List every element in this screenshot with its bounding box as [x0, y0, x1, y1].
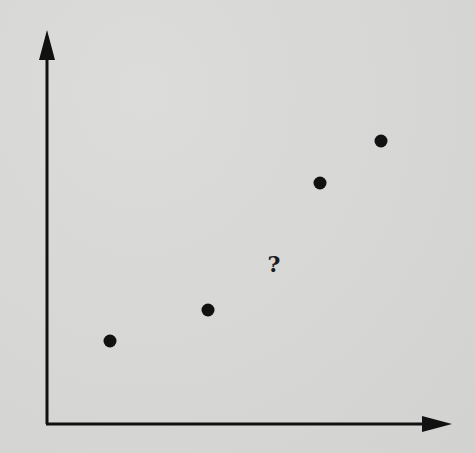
axes	[39, 30, 452, 432]
scatter-plot	[0, 0, 475, 453]
data-points	[104, 135, 388, 348]
data-point	[375, 135, 388, 148]
missing-point-marker: ?	[268, 251, 281, 277]
data-point	[314, 177, 327, 190]
data-point	[104, 335, 117, 348]
y-axis-arrow-icon	[39, 30, 55, 60]
x-axis-arrow-icon	[422, 416, 452, 432]
data-point	[202, 304, 215, 317]
